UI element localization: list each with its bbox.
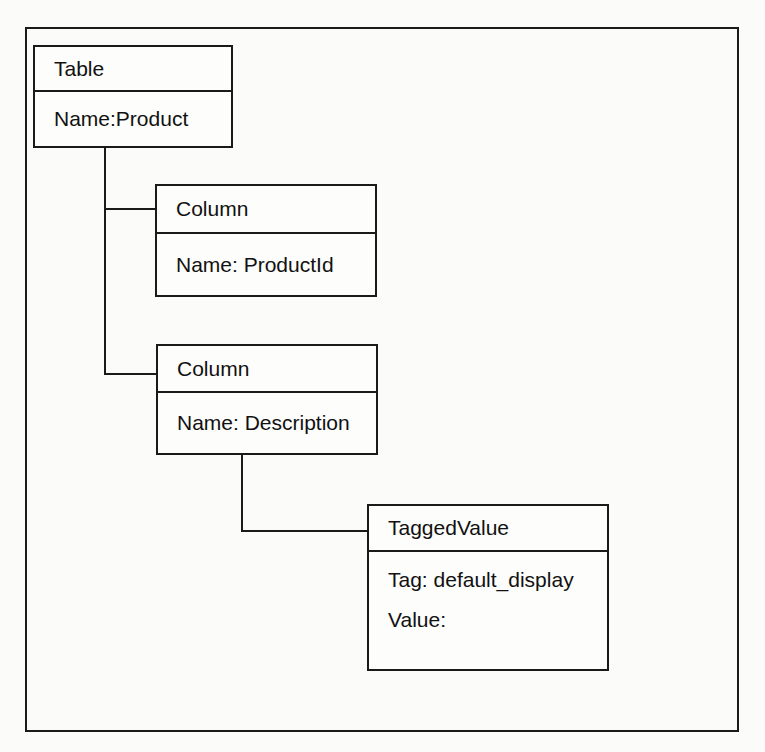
column-node-attribute: Name: ProductId [157, 234, 375, 295]
table-node[interactable]: Table Name:Product [33, 45, 233, 148]
connector-table-column1 [104, 208, 156, 210]
connector-table-trunk [104, 146, 106, 375]
taggedvalue-tag-attribute: Tag: default_display [369, 559, 607, 601]
column-node-title: Column [157, 186, 375, 234]
taggedvalue-node-title: TaggedValue [369, 506, 607, 552]
table-node-title: Table [35, 47, 231, 92]
taggedvalue-node[interactable]: TaggedValue Tag: default_display Value: [367, 504, 609, 671]
column-node-title: Column [158, 346, 376, 393]
column-description-node[interactable]: Column Name: Description [156, 344, 378, 455]
table-node-attribute: Name:Product [35, 92, 231, 146]
taggedvalue-value-attribute: Value: [369, 601, 607, 639]
connector-column2-taggedvalue [241, 530, 368, 532]
connector-column2-trunk [241, 453, 243, 532]
column-productid-node[interactable]: Column Name: ProductId [155, 184, 377, 297]
column-node-attribute: Name: Description [158, 393, 376, 453]
connector-table-column2 [104, 373, 157, 375]
